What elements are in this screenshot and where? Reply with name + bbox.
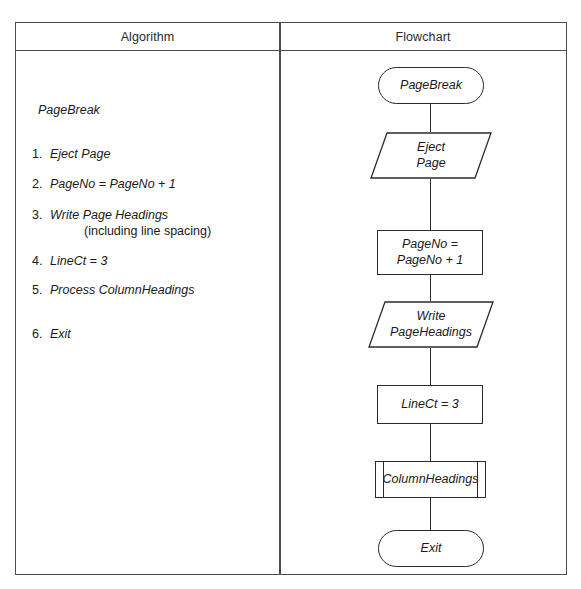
flow-connector-3 [430,275,431,301]
flow-node-write-headings-io: Write PageHeadings [368,301,494,348]
algorithm-step-3: 3.Write Page Headings [32,208,272,222]
algorithm-step-2: 2.PageNo = PageNo + 1 [32,177,272,191]
flow-node-exit-terminator: Exit [378,530,484,567]
step-number: 5. [32,283,50,297]
flow-node-exit-label: Exit [421,541,442,557]
flow-node-start-terminator: PageBreak [378,67,484,104]
column-header-flowchart: Flowchart [280,23,566,50]
predefined-process-right-bar [477,462,478,497]
label-line-1: Write [416,309,445,323]
flow-connector-2 [430,179,431,230]
step-number: 4. [32,254,50,268]
flow-node-set-linect-label: LineCt = 3 [401,397,458,413]
flow-node-write-headings-label: Write PageHeadings [368,301,494,348]
column-header-algorithm: Algorithm [16,23,279,50]
step-text: LineCt = 3 [50,254,107,268]
flow-connector-5 [430,424,431,461]
step-text: PageNo = PageNo + 1 [50,177,176,191]
algorithm-title: PageBreak [38,103,100,117]
label-line-2: PageHeadings [390,325,472,339]
step-text: Eject Page [50,147,110,161]
step-text: Process ColumnHeadings [50,283,195,297]
table-header-row: Algorithm Flowchart [16,23,566,51]
flow-node-column-headings-predefined-process: ColumnHeadings [375,461,486,498]
flow-connector-4 [430,348,431,385]
step-text: Write Page Headings [50,208,168,222]
algorithm-cell: PageBreak 1.Eject Page 2.PageNo = PageNo… [16,51,279,574]
flow-node-eject-page-label: Eject Page [370,132,492,179]
flow-node-increment-pageno-process: PageNo = PageNo + 1 [377,230,483,275]
flow-node-start-label: PageBreak [400,78,462,94]
flow-node-increment-pageno-label: PageNo = PageNo + 1 [397,237,463,268]
step-number: 2. [32,177,50,191]
algorithm-step-1: 1.Eject Page [32,147,272,161]
predefined-process-left-bar [383,462,384,497]
flow-node-column-headings-label: ColumnHeadings [383,472,479,488]
algorithm-step-6: 6.Exit [32,327,272,341]
algorithm-step-5: 5.Process ColumnHeadings [32,283,272,297]
label-line-2: PageNo + 1 [397,253,463,267]
label-line-2: Page [416,156,445,170]
flow-node-set-linect-process: LineCt = 3 [377,385,483,424]
step-number: 6. [32,327,50,341]
step-number: 1. [32,147,50,161]
algorithm-step-3-note: (including line spacing) [84,224,211,238]
algorithm-flowchart-table: Algorithm Flowchart PageBreak 1.Eject Pa… [15,22,567,575]
label-line-1: Eject [417,140,445,154]
label-line-1: PageNo = [402,237,458,251]
flow-connector-1 [430,104,431,132]
step-text: Exit [50,327,71,341]
flow-connector-6 [430,498,431,530]
algorithm-step-4: 4.LineCt = 3 [32,254,272,268]
flowchart-cell: PageBreak Eject Page PageNo = PageNo + 1 [280,51,566,574]
flow-node-eject-page-io: Eject Page [370,132,492,179]
step-number: 3. [32,208,50,222]
